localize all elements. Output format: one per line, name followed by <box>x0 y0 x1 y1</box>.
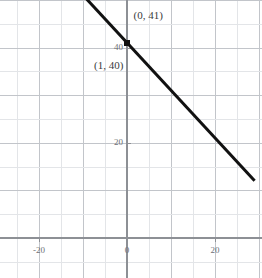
graph-canvas: 2040-20020 (0, 41)(1, 40) <box>0 0 262 278</box>
data-point-marker <box>124 40 130 46</box>
point-annotation-label: (0, 41) <box>134 10 163 21</box>
point-annotation-label: (1, 40) <box>94 60 123 71</box>
data-line-layer <box>0 0 262 278</box>
data-line <box>8 0 254 181</box>
